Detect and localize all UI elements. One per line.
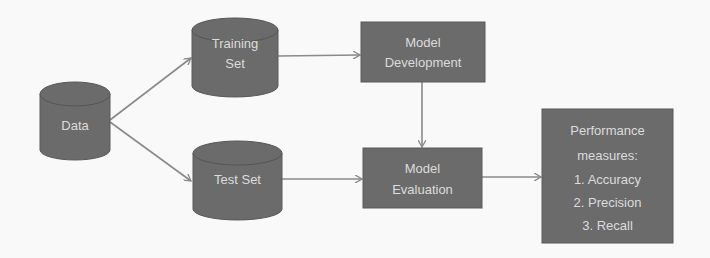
metric-recall: 3. Recall (582, 218, 633, 233)
node-label-line-2: measures: (577, 148, 638, 163)
workflow-diagram: Data Training Set Test Set Model Develop… (0, 0, 710, 258)
node-performance-measures: Performance measures: 1. Accuracy 2. Pre… (542, 109, 673, 243)
metric-accuracy: 1. Accuracy (574, 172, 642, 187)
node-training-set: Training Set (192, 18, 278, 97)
node-test-set: Test Set (193, 141, 282, 220)
node-label-line-1: Model (405, 35, 441, 50)
node-label-line-1: Performance (570, 123, 644, 138)
node-label-line-1: Training (212, 36, 258, 51)
node-label-line-2: Development (385, 55, 462, 70)
metric-precision: 2. Precision (574, 195, 642, 210)
node-data: Data (40, 82, 110, 160)
node-label: Data (61, 118, 89, 133)
node-label: Test Set (214, 172, 261, 187)
cylinder-top (40, 82, 110, 106)
edge-data-to-training (110, 58, 191, 120)
edge-training-to-development (278, 55, 360, 56)
node-box (361, 22, 485, 82)
node-label-line-1: Model (405, 161, 441, 176)
node-model-evaluation: Model Evaluation (363, 148, 482, 208)
node-label-line-2: Evaluation (392, 182, 453, 197)
node-box (363, 148, 482, 208)
node-model-development: Model Development (361, 22, 485, 82)
cylinder-top (193, 141, 282, 165)
node-label-line-2: Set (225, 56, 245, 71)
edge-data-to-test (110, 122, 191, 181)
